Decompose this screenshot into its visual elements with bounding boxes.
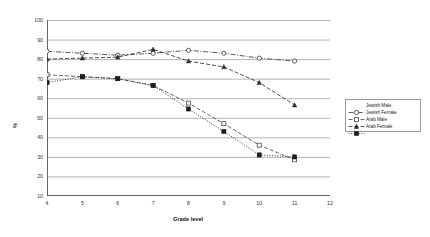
data-point-marker bbox=[80, 75, 84, 79]
data-point-marker bbox=[151, 51, 155, 55]
y-tick-label: 30 bbox=[25, 154, 43, 160]
legend-item[interactable]: Jewish Female bbox=[348, 109, 418, 116]
data-point-marker bbox=[47, 49, 49, 53]
data-point-marker bbox=[47, 80, 49, 84]
y-tick-label: 70 bbox=[25, 76, 43, 82]
legend-label: Arab Male bbox=[365, 116, 387, 123]
legend-item[interactable]: Arab Female bbox=[348, 123, 418, 130]
y-tick-label: 10 bbox=[25, 193, 43, 199]
data-point-marker bbox=[292, 103, 296, 107]
x-tick-label: 5 bbox=[75, 200, 89, 206]
legend-item[interactable]: Jewish Male bbox=[348, 102, 418, 109]
y-axis-title: % bbox=[12, 123, 18, 128]
data-point-marker bbox=[151, 83, 155, 87]
x-tick-label: 6 bbox=[111, 200, 125, 206]
data-point-marker bbox=[222, 65, 226, 69]
y-tick-label: 60 bbox=[25, 95, 43, 101]
data-point-marker bbox=[222, 129, 226, 133]
x-tick-label: 7 bbox=[146, 200, 160, 206]
data-point-marker bbox=[257, 153, 261, 157]
data-point-marker bbox=[293, 59, 297, 63]
x-tick-label: 8 bbox=[182, 200, 196, 206]
y-tick-label: 80 bbox=[25, 56, 43, 62]
data-point-marker bbox=[80, 51, 84, 55]
data-point-marker bbox=[47, 73, 49, 77]
legend-label: Jewish Male bbox=[365, 102, 391, 109]
legend-swatch-icon bbox=[348, 109, 365, 116]
x-axis-title: Grade level bbox=[128, 216, 248, 222]
x-tick-label: 10 bbox=[252, 200, 266, 206]
data-point-marker bbox=[354, 131, 358, 135]
data-point-marker bbox=[151, 47, 155, 51]
x-tick-label: 12 bbox=[323, 200, 337, 206]
legend-swatch-icon bbox=[348, 116, 365, 123]
data-point-marker bbox=[222, 122, 226, 126]
y-tick-label: 90 bbox=[25, 37, 43, 43]
data-point-marker bbox=[116, 77, 120, 81]
legend-swatch-icon bbox=[348, 123, 365, 130]
y-tick-label: 50 bbox=[25, 115, 43, 121]
legend-label: Arab Female bbox=[365, 123, 392, 130]
legend-swatch-icon bbox=[348, 102, 365, 109]
data-point-marker bbox=[257, 56, 261, 60]
data-point-marker bbox=[293, 155, 297, 159]
x-tick-label: 11 bbox=[288, 200, 302, 206]
y-tick-label: 20 bbox=[25, 173, 43, 179]
y-tick-label: 100 bbox=[25, 17, 43, 23]
legend-item[interactable]: Arab Male bbox=[348, 116, 418, 123]
data-point-marker bbox=[222, 51, 226, 55]
series-2 bbox=[47, 73, 297, 162]
x-tick-label: 4 bbox=[40, 200, 54, 206]
x-tick-label: 9 bbox=[217, 200, 231, 206]
chart-figure: 102030405060708090100 456789101112 % Gra… bbox=[0, 0, 430, 237]
data-point-marker bbox=[186, 107, 190, 111]
data-point-marker bbox=[186, 48, 190, 52]
data-point-marker bbox=[187, 101, 191, 105]
legend: Jewish MaleJewish FemaleArab MaleArab Fe… bbox=[345, 99, 421, 132]
plot-area bbox=[47, 20, 330, 196]
y-tick-label: 40 bbox=[25, 134, 43, 140]
data-point-marker bbox=[257, 143, 261, 147]
legend-label: Jewish Female bbox=[365, 109, 397, 116]
plot-svg bbox=[47, 20, 330, 196]
